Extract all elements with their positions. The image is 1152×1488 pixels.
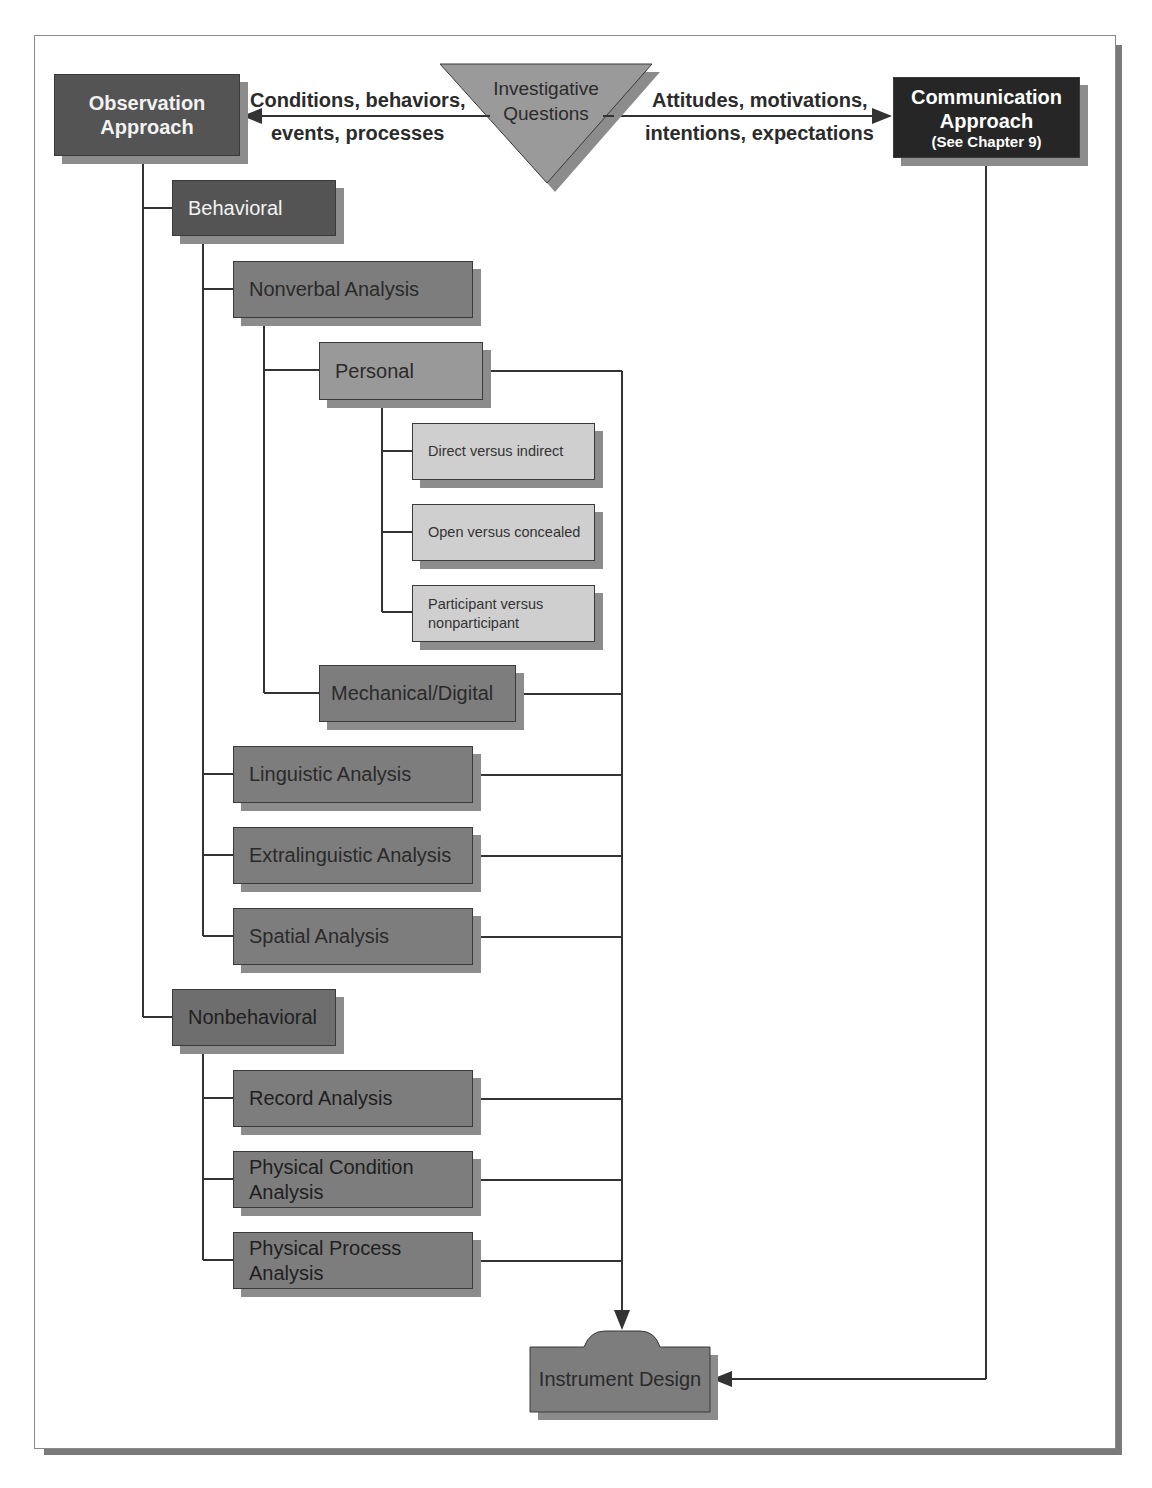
instrument-design-shape (0, 0, 1152, 1488)
instrument-design-box: Instrument Design (530, 1347, 710, 1412)
instrument-design-label: Instrument Design (539, 1368, 701, 1391)
